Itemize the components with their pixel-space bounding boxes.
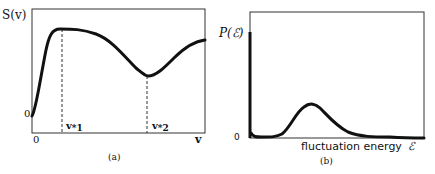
- marker-v2-label: v*2: [152, 121, 169, 131]
- panel-b-y-zero: 0: [234, 133, 240, 142]
- panel-a-frame: [32, 9, 205, 133]
- panel-b-frame: [250, 12, 424, 138]
- panel-b-y-label: P(ℰ): [219, 27, 243, 39]
- panel-a-x-label: v: [195, 134, 201, 145]
- marker-v1-label: v*1: [66, 121, 83, 131]
- probability-curve: [251, 104, 424, 138]
- panel-a-x-zero: 0: [33, 135, 39, 145]
- marker-v1-base: v: [66, 120, 72, 131]
- panel-b-x-symbol: ℰ: [408, 140, 415, 153]
- panel-b-caption: (b): [320, 157, 333, 166]
- marker-v1-sub: *1: [72, 123, 83, 133]
- marker-v2-sub: *2: [158, 123, 169, 133]
- marker-v2-base: v: [152, 120, 158, 131]
- panel-b-x-label: fluctuation energy ℰ: [301, 141, 415, 152]
- panel-a-y-label: S(v): [2, 9, 26, 21]
- panel-a-caption: (a): [108, 153, 120, 162]
- entropy-curve: [32, 29, 205, 116]
- panel-b-x-text: fluctuation energy: [301, 140, 402, 153]
- panel-a-y-zero: 0: [24, 109, 30, 119]
